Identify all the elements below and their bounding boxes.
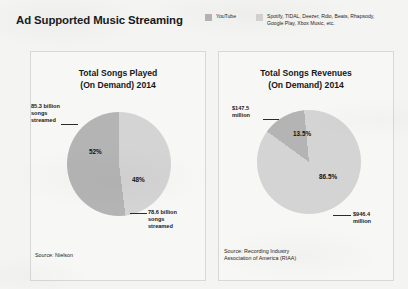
legend-swatch-icon-youtube: [205, 14, 212, 21]
chart-source-songs-played: Source: Nielson: [35, 252, 73, 259]
callout-upper-left-songs-played: 85.3 billion songs streamed: [31, 103, 60, 125]
pie-slice-label-dark: 13.5%: [293, 130, 311, 137]
callout-lower-right-songs-revenues: $946.4 million: [353, 211, 371, 225]
pie-slice-label-light: 48%: [132, 176, 145, 183]
chart-title-songs-played: Total Songs Played (On Demand) 2014: [31, 68, 205, 91]
leader-line-upper-left: [263, 119, 279, 120]
pie-chart-songs-revenues: 13.5% 86.5%: [257, 110, 361, 214]
legend-item-youtube: YouTube: [205, 13, 236, 21]
legend-label-youtube: YouTube: [216, 13, 236, 20]
chart-panel-total-songs-revenues: Total Songs Revenues (On Demand) 2014 13…: [218, 51, 394, 281]
callout-lower-right-songs-played: 78.6 billion songs streamed: [148, 209, 177, 231]
pie-graphic: [257, 110, 361, 214]
legend-item-others: Spotify, TIDAL, Deezer, Rdio, Beats, Rha…: [256, 13, 374, 27]
pie-chart-songs-played: 52% 48%: [67, 112, 171, 216]
leader-line-lower-right: [130, 213, 147, 214]
chart-panel-total-songs-played: Total Songs Played (On Demand) 2014 52% …: [30, 51, 206, 281]
legend-label-others: Spotify, TIDAL, Deezer, Rdio, Beats, Rha…: [267, 13, 374, 27]
legend-swatch-icon-others: [256, 14, 263, 21]
page-title: Ad Supported Music Streaming: [16, 14, 183, 26]
leader-line-lower-right: [333, 215, 351, 216]
chart-title-songs-revenues: Total Songs Revenues (On Demand) 2014: [219, 68, 393, 91]
chart-source-songs-revenues: Source: Recording Industry Association o…: [224, 248, 296, 263]
chart-legend: YouTube Spotify, TIDAL, Deezer, Rdio, Be…: [205, 13, 374, 27]
infographic-header: Ad Supported Music Streaming YouTube Spo…: [0, 0, 408, 44]
pie-slice-label-light: 86.5%: [319, 173, 337, 180]
pie-graphic: [67, 112, 171, 216]
callout-upper-left-songs-revenues: $147.5 million: [232, 105, 250, 119]
pie-slice-label-dark: 52%: [89, 148, 102, 155]
leader-line-upper-left: [61, 124, 78, 125]
